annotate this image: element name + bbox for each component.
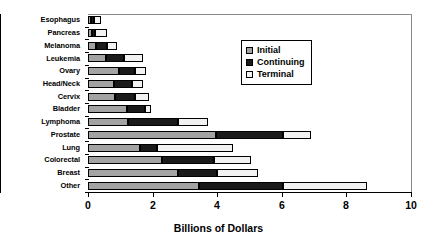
bar-segment-terminal: [178, 118, 207, 126]
bar-segment-continuing: [114, 80, 132, 88]
legend-item-initial: Initial: [246, 45, 304, 56]
bar-segment-terminal: [132, 80, 143, 88]
bar-segment-terminal: [135, 67, 146, 75]
bar-segment-terminal: [95, 29, 107, 37]
bar-segment-initial: [88, 169, 178, 177]
bar-segment-terminal: [217, 169, 257, 177]
bar-row: [88, 131, 411, 139]
bar-segment-continuing: [115, 93, 134, 101]
x-axis-tick-label: 8: [333, 199, 359, 211]
x-axis-tick-label: 10: [398, 199, 424, 211]
bar-segment-initial: [88, 54, 106, 62]
legend-label: Initial: [257, 45, 281, 56]
bar-segment-initial: [88, 105, 127, 113]
bar-segment-terminal: [107, 42, 117, 50]
x-axis-tick: [88, 193, 89, 197]
bar-segment-initial: [88, 80, 114, 88]
bar-segment-terminal: [157, 144, 233, 152]
legend-label: Continuing: [257, 57, 304, 68]
y-axis-tick: [85, 116, 89, 117]
bar-segment-terminal: [283, 131, 310, 139]
stacked-bar-chart: EsophagusPancreasMelanomaLeukemiaOvaryHe…: [0, 0, 437, 250]
y-axis-tick: [85, 39, 89, 40]
bar-segment-initial: [88, 42, 96, 50]
bar-segment-continuing: [119, 67, 135, 75]
bar-row: [88, 93, 411, 101]
bar-segment-terminal: [214, 156, 251, 164]
x-axis-tick: [411, 193, 412, 197]
bar-segment-initial: [88, 29, 92, 37]
bar-segment-continuing: [128, 118, 178, 126]
bar-segment-initial: [88, 131, 216, 139]
bar-segment-initial: [88, 156, 162, 164]
bar-segment-continuing: [91, 16, 94, 24]
y-axis-tick: [85, 128, 89, 129]
bar-row: [88, 182, 411, 190]
bar-segment-terminal: [94, 16, 100, 24]
bar-segment-continuing: [140, 144, 158, 152]
bar-segment-terminal: [124, 54, 143, 62]
bar-segment-continuing: [162, 156, 214, 164]
bar-row: [88, 118, 411, 126]
y-axis-tick: [85, 103, 89, 104]
x-axis-tick-label: 2: [140, 199, 166, 211]
bar-segment-terminal: [283, 182, 367, 190]
bar-row: [88, 156, 411, 164]
y-axis-tick: [85, 90, 89, 91]
y-axis-tick: [85, 154, 89, 155]
y-axis-tick: [85, 167, 89, 168]
bar-segment-continuing: [96, 42, 107, 50]
bar-segment-initial: [88, 118, 128, 126]
bar-segment-initial: [88, 144, 140, 152]
bar-segment-continuing: [106, 54, 124, 62]
bar-series-area: [0, 0, 437, 250]
x-axis-tick: [217, 193, 218, 197]
bar-segment-terminal: [145, 105, 151, 113]
bar-segment-initial: [88, 16, 91, 24]
legend-item-terminal: Terminal: [246, 69, 304, 80]
x-axis-tick-label: 6: [269, 199, 295, 211]
bar-row: [88, 16, 411, 24]
x-axis-tick-label: 0: [75, 199, 101, 211]
legend-label: Terminal: [257, 69, 294, 80]
bar-row: [88, 29, 411, 37]
bar-segment-initial: [88, 67, 119, 75]
bar-row: [88, 169, 411, 177]
bar-segment-continuing: [216, 131, 284, 139]
legend-item-continuing: Continuing: [246, 57, 304, 68]
y-axis-tick: [85, 78, 89, 79]
y-axis-tick: [85, 179, 89, 180]
bar-row: [88, 144, 411, 152]
bar-segment-initial: [88, 93, 115, 101]
x-axis-tick-label: 4: [204, 199, 230, 211]
bar-segment-continuing: [92, 29, 95, 37]
x-axis-tick: [282, 193, 283, 197]
legend-swatch-continuing-icon: [246, 59, 253, 66]
legend-swatch-initial-icon: [246, 47, 253, 54]
bar-segment-terminal: [135, 93, 150, 101]
x-axis-title: Billions of Dollars: [0, 222, 437, 234]
y-axis-tick: [85, 141, 89, 142]
bar-segment-initial: [88, 182, 199, 190]
bar-segment-continuing: [127, 105, 145, 113]
chart-legend: InitialContinuingTerminal: [241, 40, 312, 85]
bar-segment-continuing: [199, 182, 283, 190]
x-axis-tick: [346, 193, 347, 197]
bar-row: [88, 105, 411, 113]
bar-segment-continuing: [178, 169, 217, 177]
x-axis-tick: [153, 193, 154, 197]
legend-swatch-terminal-icon: [246, 71, 253, 78]
y-axis-tick: [85, 27, 89, 28]
y-axis-tick: [85, 65, 89, 66]
y-axis-tick: [85, 52, 89, 53]
